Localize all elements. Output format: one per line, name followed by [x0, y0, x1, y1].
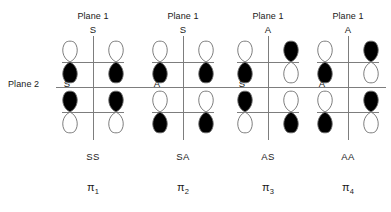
plane-1-label-4: Plane 1 [332, 11, 363, 21]
plane-1-label-3: Plane 1 [252, 11, 283, 21]
p-orbital-4-bottom-right [360, 89, 382, 135]
mo-label-1: π1 [87, 182, 99, 197]
mo-label-2: π2 [177, 182, 189, 197]
plane-1-symmetry-2: S [180, 25, 186, 35]
p-orbital-1-top-right [105, 39, 127, 85]
plane-2-label: Plane 2 [8, 79, 39, 89]
p-orbital-3-top-right [280, 39, 302, 85]
plane-1-symmetry-4: A [345, 25, 351, 35]
p-orbital-4-bottom-left [314, 89, 336, 135]
p-orbital-2-bottom-left [149, 89, 171, 135]
p-orbital-1-bottom-left [59, 89, 81, 135]
plane-2-symmetry-2: A [154, 79, 160, 89]
plane-1-mirror-line-3 [268, 36, 269, 140]
p-orbital-2-top-right [195, 39, 217, 85]
orbital-symmetry-diagram: Plane 2 Plane 1SSSSπ1Plane 1SASAπ2Plane … [0, 0, 391, 212]
plane-1-label-2: Plane 1 [167, 11, 198, 21]
plane-1-symmetry-1: S [90, 25, 96, 35]
plane-1-mirror-line-1 [93, 36, 94, 140]
plane-2-mirror-line [56, 87, 386, 88]
p-orbital-2-bottom-right [195, 89, 217, 135]
p-orbital-4-top-right [360, 39, 382, 85]
combined-symmetry-1: SS [86, 152, 99, 162]
p-orbital-1-bottom-right [105, 89, 127, 135]
mo-label-4: π4 [342, 182, 354, 197]
combined-symmetry-2: SA [176, 152, 189, 162]
plane-1-mirror-line-2 [183, 36, 184, 140]
plane-2-symmetry-3: S [239, 79, 245, 89]
plane-2-symmetry-1: S [64, 79, 70, 89]
mo-label-3: π3 [262, 182, 274, 197]
combined-symmetry-4: AA [341, 152, 354, 162]
plane-2-symmetry-4: A [319, 79, 325, 89]
plane-1-symmetry-3: A [265, 25, 271, 35]
combined-symmetry-3: AS [261, 152, 274, 162]
p-orbital-3-bottom-left [234, 89, 256, 135]
plane-1-mirror-line-4 [348, 36, 349, 140]
p-orbital-3-bottom-right [280, 89, 302, 135]
plane-1-label-1: Plane 1 [77, 11, 108, 21]
